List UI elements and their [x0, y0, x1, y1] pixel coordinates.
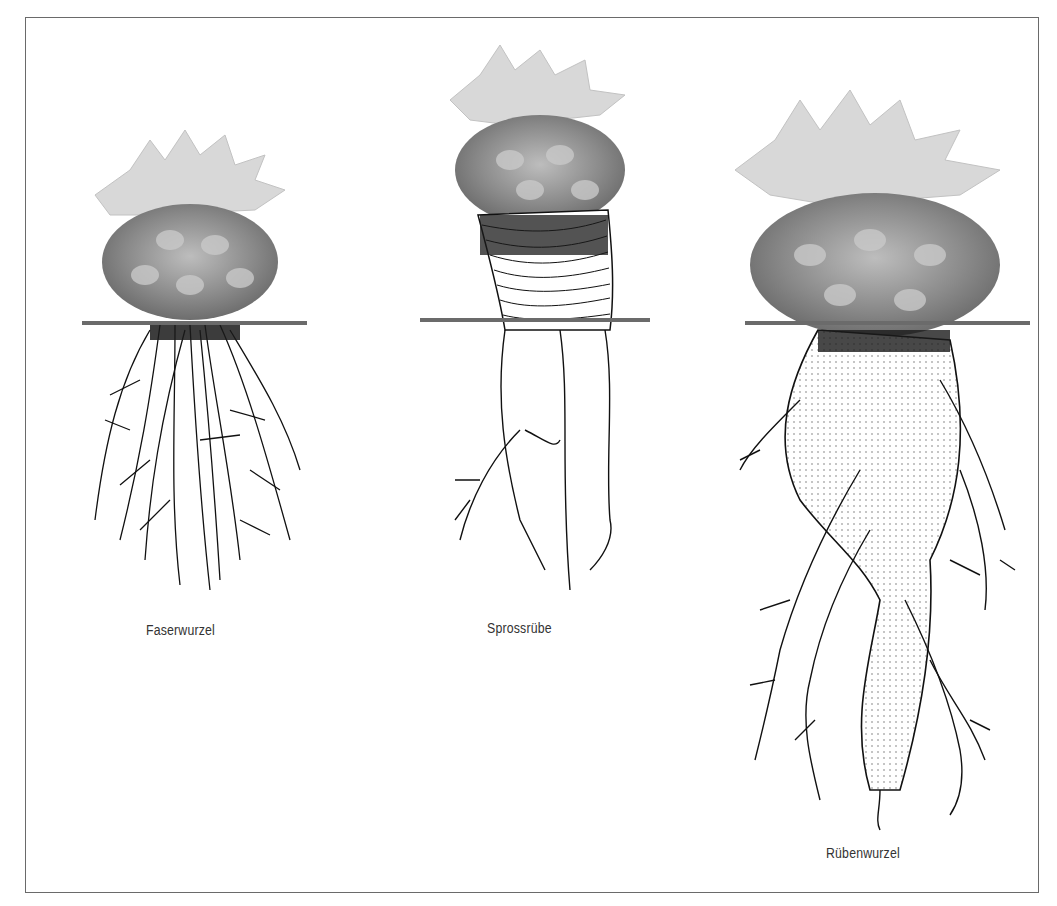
- label-sprossruebe: Sprossrübe: [487, 620, 552, 636]
- plant-faserwurzel: [82, 130, 307, 590]
- ground-line: [420, 318, 650, 322]
- flower-icon: [450, 45, 625, 125]
- root-diagram: [0, 0, 1057, 906]
- ground-line: [82, 321, 307, 325]
- tuber-roots-icon: [455, 330, 611, 590]
- label-ruebenwurzel: Rübenwurzel: [826, 845, 900, 861]
- plant-ruebenwurzel: [735, 90, 1030, 830]
- ground-line: [745, 321, 1030, 325]
- flower-icon: [95, 130, 285, 215]
- cactus-body-icon: [455, 115, 625, 225]
- cactus-body-icon: [750, 193, 1000, 337]
- fibrous-roots-icon: [95, 325, 300, 590]
- flower-icon: [735, 90, 1000, 205]
- label-faserwurzel: Faserwurzel: [146, 622, 215, 638]
- plant-sprossruebe: [420, 45, 650, 590]
- cactus-body-icon: [102, 204, 278, 320]
